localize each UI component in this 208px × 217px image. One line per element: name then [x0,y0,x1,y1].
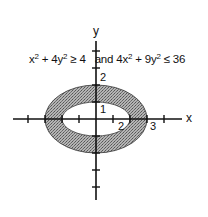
cond-connector: and [92,53,117,65]
cond-term: 4x [116,53,128,65]
x-tick-label-3: 3 [150,121,156,132]
cond-term: + 4y [39,53,63,65]
y-axis-label: y [93,26,99,37]
x-tick-label-2: 2 [118,121,124,132]
y-tick-label-2: 2 [100,72,106,83]
cond-term: ≥ 4 [67,53,85,65]
y-tick-label-1: 1 [100,104,106,115]
cond-term: ≤ 36 [161,53,186,65]
region-condition: x2 + 4y2 ≥ 4 and 4x2 + 9y2 ≤ 36 [29,53,185,65]
x-axis-label: x [186,113,192,124]
cond-term: + 9y [132,53,156,65]
